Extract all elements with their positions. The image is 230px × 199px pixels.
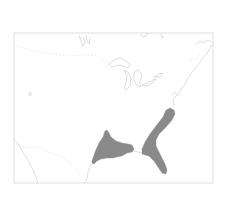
range-map: [0, 0, 230, 199]
map-background: [0, 0, 230, 199]
